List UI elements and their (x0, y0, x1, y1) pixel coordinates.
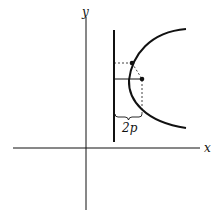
brace-2p (115, 114, 142, 120)
diagram-svg: y x 2p (0, 0, 223, 211)
distance-label-2p: 2p (121, 121, 138, 135)
point-on-parabola (130, 61, 135, 66)
y-axis-label: y (81, 5, 89, 19)
parabola-diagram: y x 2p (0, 0, 223, 211)
x-axis-label: x (204, 141, 211, 155)
focus-point (140, 77, 145, 82)
